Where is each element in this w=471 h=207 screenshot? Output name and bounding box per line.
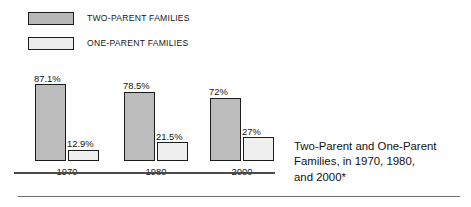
bar-group-1980: 78.5%21.5%1980 [124, 61, 188, 161]
chart-baseline-axis [14, 172, 275, 174]
bar-group-1970: 87.1%12.9%1970 [35, 61, 99, 161]
bar-2000-two-parent: 72% [210, 98, 241, 161]
bar-value-label: 72% [209, 86, 228, 97]
bar-2000-one-parent: 27% [243, 137, 274, 161]
caption-line-1: Two-Parent and One-Parent [294, 139, 466, 154]
caption-line-2: Families, in 1970, 1980, [294, 154, 466, 169]
bar-value-label: 12.9% [67, 138, 94, 149]
bar-value-label: 87.1% [34, 73, 61, 84]
bar-value-label: 27% [242, 126, 261, 137]
bar-value-label: 21.5% [156, 131, 183, 142]
bottom-divider [18, 196, 460, 197]
caption-line-3: and 2000* [294, 170, 466, 185]
bar-1970-two-parent: 87.1% [35, 84, 66, 161]
bar-group-2000: 72%27%2000 [210, 61, 274, 161]
chart-caption: Two-Parent and One-Parent Families, in 1… [294, 139, 466, 185]
bar-1980-one-parent: 21.5% [157, 142, 188, 161]
bar-chart-plot-area: 87.1%12.9%197078.5%21.5%198072%27%2000 [0, 0, 290, 196]
bar-value-label: 78.5% [123, 80, 150, 91]
bar-1970-one-parent: 12.9% [68, 150, 99, 161]
bar-1980-two-parent: 78.5% [124, 92, 155, 161]
